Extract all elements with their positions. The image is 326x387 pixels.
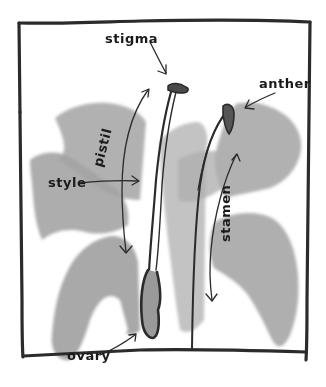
label-stigma: stigma	[105, 32, 158, 45]
petal-lower-left	[52, 236, 140, 360]
petals	[30, 102, 301, 360]
label-ovary: ovary	[67, 349, 111, 362]
ovary-shape	[141, 270, 160, 338]
flower-diagram: stigma anther pistil style stamen ovary	[0, 0, 326, 387]
label-anther: anther	[259, 77, 311, 90]
stigma-arrow	[150, 42, 166, 73]
flower-illustration	[0, 0, 326, 387]
label-stamen: stamen	[219, 185, 232, 242]
label-style: style	[48, 176, 86, 189]
